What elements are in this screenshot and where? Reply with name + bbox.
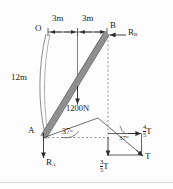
angle-unit-A: o (70, 128, 73, 133)
angle-value-A: 37 (62, 127, 70, 136)
point-label-B: B (110, 21, 116, 30)
beam-member-AB (41, 32, 110, 139)
tension-label-vertical-component: 3 5 T (100, 159, 108, 173)
angle-unit-triangle: o (126, 134, 129, 139)
angle-label-37-at-A: 37o (62, 128, 73, 136)
point-label-O: O (35, 24, 42, 33)
angle-value-triangle: 37 (119, 134, 126, 142)
reaction-label-RB-subscript: B (134, 32, 137, 37)
dimension-label-3m-right: 3m (82, 14, 94, 23)
tension-symbol-vertical: T (103, 161, 108, 171)
reaction-label-RB: RB (128, 28, 137, 37)
reaction-label-RA: RA (46, 158, 56, 167)
dimension-arc-12m-inner (44, 34, 50, 134)
angle-label-37-force-triangle: 37o (119, 134, 129, 142)
tension-symbol-horizontal: T (146, 126, 151, 136)
load-label-1200N: 1200N (66, 104, 89, 113)
tension-label-horizontal-component: 4 5 T (143, 124, 151, 138)
dimension-label-12m: 12m (11, 73, 27, 82)
angle-arc-37-force-triangle (120, 126, 126, 134)
reaction-label-RA-subscript: A (52, 162, 56, 167)
tension-label-resultant: T (145, 152, 151, 161)
bottom-divider (0, 182, 173, 183)
dimension-arc-12m (40, 34, 46, 134)
dimension-label-3m-left: 3m (52, 14, 64, 23)
point-label-A: A (28, 126, 35, 135)
figure-canvas: 3m 3m O B RB 12m 1200N A RA 37o 37o 4 5 … (0, 0, 173, 189)
